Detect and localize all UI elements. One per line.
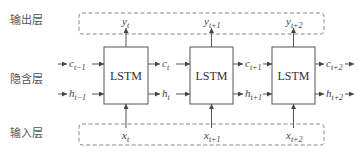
state-c-t: ct — [162, 57, 170, 72]
input-x-t2: xt+2 — [285, 129, 303, 144]
state-h-t: ht — [162, 87, 171, 102]
lstm-cell-label: LSTM — [277, 69, 309, 83]
output-y-t2: yt+2 — [285, 15, 303, 30]
hidden-layer-label: 隐含层 — [10, 72, 43, 86]
output-y-t: yt — [121, 15, 130, 30]
lstm-cell-2: LSTM — [190, 47, 233, 104]
output-layer-label: 输出层 — [10, 13, 43, 27]
state-h-t2: ht+2 — [326, 87, 343, 102]
state-h-t-minus-1: ht−1 — [69, 87, 86, 102]
state-h-t1: ht+1 — [245, 87, 262, 102]
input-layer-label: 输入层 — [10, 126, 43, 140]
lstm-cell-label: LSTM — [195, 69, 227, 83]
input-x-t1: xt+1 — [203, 129, 221, 144]
state-c-t1: ct+1 — [245, 57, 262, 72]
lstm-unrolled-diagram: 输出层 隐含层 输入层 LSTM LSTM LSTM yt yt+1 yt+2 … — [0, 0, 362, 159]
state-c-t-minus-1: ct−1 — [69, 57, 86, 72]
input-x-t: xt — [121, 129, 130, 144]
lstm-cell-1: LSTM — [104, 47, 148, 104]
output-y-t1: yt+1 — [203, 15, 221, 30]
lstm-cell-3: LSTM — [272, 47, 315, 104]
lstm-cell-label: LSTM — [110, 69, 142, 83]
state-c-t2: ct+2 — [326, 57, 343, 72]
